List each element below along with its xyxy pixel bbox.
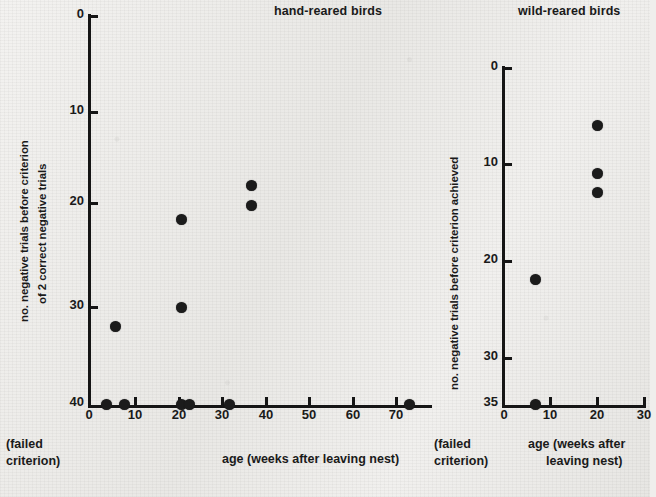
panel-title-wild-reared: wild-reared birds — [518, 4, 620, 18]
y-tick-right-30 — [505, 357, 512, 360]
x-tick-right-30 — [643, 397, 646, 405]
x-tick-left-70 — [395, 397, 398, 405]
y-tick-label-left-30: 30 — [44, 297, 84, 312]
failed-criterion-note-left-line-1: (failed — [6, 437, 43, 451]
data-point — [119, 399, 130, 410]
x-tick-label-left-40: 40 — [248, 407, 284, 422]
data-point — [176, 302, 187, 313]
y-tick-label-left-0: 0 — [44, 6, 84, 21]
y-tick-left-10 — [91, 111, 98, 114]
data-point — [592, 168, 603, 179]
failed-criterion-note-right-line-2: criterion) — [434, 454, 488, 468]
data-point — [110, 321, 121, 332]
y-axis-label-line-1: no. negative trials before criterion — [18, 140, 30, 322]
y-tick-label-right-20: 20 — [458, 251, 498, 266]
x-axis-label-hand-reared: age (weeks after leaving nest) — [222, 452, 399, 466]
y-tick-right-20 — [505, 260, 512, 263]
y-tick-label-left-10: 10 — [44, 102, 84, 117]
x-tick-label-right-0: 0 — [486, 407, 522, 422]
data-point — [592, 187, 603, 198]
x-axis-line-right — [502, 405, 646, 408]
data-point — [404, 399, 415, 410]
data-point — [224, 399, 235, 410]
x-tick-left-50 — [308, 397, 311, 405]
x-tick-label-left-60: 60 — [335, 407, 371, 422]
y-tick-label-left-20: 20 — [44, 193, 84, 208]
panel-title-hand-reared: hand-reared birds — [274, 4, 382, 18]
failed-criterion-note-left-line-2: criterion) — [6, 454, 60, 468]
y-tick-left-30 — [91, 306, 98, 309]
data-point — [184, 399, 195, 410]
data-point — [246, 180, 257, 191]
y-tick-label-right-10: 10 — [458, 154, 498, 169]
data-point — [101, 399, 112, 410]
x-tick-label-left-30: 30 — [204, 407, 240, 422]
data-point — [592, 120, 603, 131]
x-tick-left-10 — [134, 397, 137, 405]
data-point — [530, 274, 541, 285]
x-tick-label-right-20: 20 — [579, 407, 615, 422]
x-tick-label-left-0: 0 — [71, 407, 107, 422]
y-tick-left-20 — [91, 202, 98, 205]
data-point — [246, 200, 257, 211]
x-tick-right-20 — [596, 397, 599, 405]
y-tick-label-right-30: 30 — [458, 348, 498, 363]
data-point — [176, 214, 187, 225]
y-tick-left-0 — [91, 15, 98, 18]
data-point — [530, 399, 541, 410]
failed-criterion-note-right-line-1: (failed — [434, 437, 471, 451]
x-axis-label-wild-reared-line-2: leaving nest) — [546, 454, 622, 468]
x-tick-label-right-30: 30 — [626, 407, 656, 422]
y-tick-label-right-0: 0 — [458, 58, 498, 73]
y-axis-label-line-2: of 2 correct negative trials — [36, 164, 48, 304]
x-tick-left-40 — [265, 397, 268, 405]
x-tick-label-left-50: 50 — [291, 407, 327, 422]
x-tick-left-60 — [352, 397, 355, 405]
x-tick-right-10 — [549, 397, 552, 405]
y-tick-right-0 — [505, 67, 512, 70]
x-axis-label-wild-reared-line-1: age (weeks after — [528, 437, 625, 451]
y-tick-right-10 — [505, 163, 512, 166]
y-axis-line-left — [88, 14, 91, 408]
